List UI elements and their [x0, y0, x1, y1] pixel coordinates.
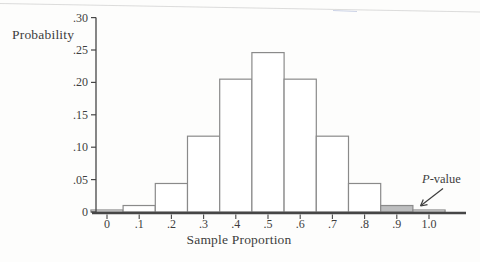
y-tick-label: 0 — [82, 205, 88, 219]
x-tick-label: 1.0 — [422, 217, 437, 231]
y-tick-label: .25 — [73, 43, 88, 57]
x-tick-label: .4 — [231, 217, 240, 231]
histogram-bar — [284, 79, 316, 212]
x-tick-label: .3 — [199, 217, 208, 231]
y-tick-label: .30 — [73, 11, 88, 25]
x-tick-label: .5 — [264, 217, 273, 231]
x-tick-label: .7 — [328, 217, 337, 231]
histogram-bar — [220, 79, 252, 212]
p-value-annotation-rest: -value — [430, 172, 461, 186]
histogram-bar — [188, 136, 220, 212]
p-value-arrow — [421, 189, 443, 206]
histogram-bar — [316, 136, 348, 212]
histogram-bar — [252, 53, 284, 212]
p-value-annotation-italic: P — [422, 172, 430, 186]
y-tick-label: .05 — [73, 173, 88, 187]
histogram-bar — [155, 183, 187, 212]
histogram-bar — [349, 183, 381, 212]
scan-artifact — [333, 11, 357, 12]
x-tick-label: .9 — [392, 217, 401, 231]
y-tick-label: .20 — [73, 75, 88, 89]
x-tick-label: 0 — [104, 217, 110, 231]
histogram-figure: 0.05.10.15.20.25.300.1.2.3.4.5.6.7.8.91.… — [0, 0, 480, 262]
scan-artifact — [0, 4, 480, 13]
x-tick-label: .1 — [135, 217, 144, 231]
y-tick-label: .10 — [73, 140, 88, 154]
histogram-bar — [123, 206, 155, 212]
y-axis-title: Probability — [12, 27, 74, 43]
x-tick-label: .8 — [360, 217, 369, 231]
histogram-bar-highlighted — [381, 206, 413, 212]
x-tick-label: .2 — [167, 217, 176, 231]
y-tick-label: .15 — [73, 108, 88, 122]
x-axis-title: Sample Proportion — [149, 232, 329, 248]
p-value-annotation: P-value — [422, 172, 461, 187]
x-tick-label: .6 — [296, 217, 305, 231]
